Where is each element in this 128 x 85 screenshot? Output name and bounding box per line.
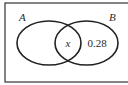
intersection-value: x (65, 37, 71, 49)
set-b-label: B (109, 11, 116, 23)
venn-diagram: A B x 0.28 (0, 0, 128, 85)
b-only-value: 0.28 (87, 37, 107, 49)
set-a-label: A (18, 11, 26, 23)
set-a-ellipse (17, 21, 81, 65)
